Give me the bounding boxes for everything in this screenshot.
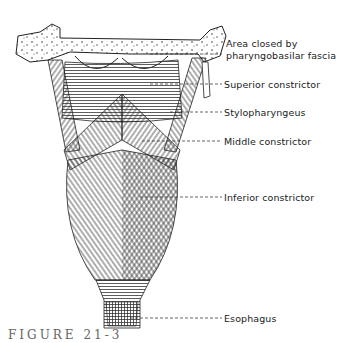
- label-stylopharyngeus: Stylopharyngeus: [224, 107, 306, 118]
- label-superior-constrictor: Superior constrictor: [224, 79, 320, 90]
- label-area-closed-line2: pharyngobasilar fascia: [226, 50, 336, 61]
- label-middle-constrictor: Middle constrictor: [224, 136, 311, 147]
- skull-base: [16, 24, 226, 62]
- label-area-closed-line1: Area closed by: [226, 38, 297, 49]
- label-esophagus: Esophagus: [224, 313, 277, 324]
- figure-caption: FIGURE 21-3: [8, 328, 122, 342]
- label-inferior-constrictor: Inferior constrictor: [224, 192, 314, 203]
- anatomy-figure: Area closed by pharyngobasilar fascia Su…: [0, 0, 340, 343]
